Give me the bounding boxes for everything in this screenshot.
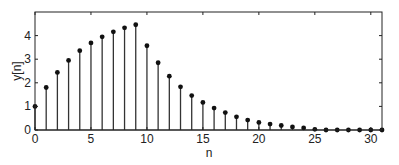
- x-tick-label: 0: [32, 132, 39, 146]
- stem-point: [145, 43, 150, 130]
- x-tick-label: 5: [88, 132, 95, 146]
- plot-canvas: 05101520253001234 n y[n]: [0, 0, 399, 165]
- stem-point: [156, 60, 161, 130]
- stem-point: [234, 114, 239, 130]
- stem-point: [178, 84, 183, 130]
- y-tick-label: 1: [24, 99, 31, 113]
- stem-plot: n y[n] 05101520253001234 n y[n]: [0, 0, 399, 165]
- stem-point: [279, 123, 284, 130]
- stem-point: [290, 125, 295, 130]
- y-tick-label: 0: [24, 123, 31, 137]
- x-tick-label: 15: [196, 132, 210, 146]
- stem-point: [245, 118, 250, 130]
- y-tick-label: 3: [24, 52, 31, 66]
- stem-point: [189, 93, 194, 130]
- stem-point: [122, 25, 127, 130]
- stem-point: [89, 41, 94, 130]
- x-axis-label: n: [206, 146, 213, 160]
- stem-series: [33, 22, 385, 132]
- stem-point: [212, 106, 217, 130]
- axes-box: [35, 12, 382, 130]
- y-tick-label: 2: [24, 76, 31, 90]
- stem-point: [44, 85, 49, 130]
- stem-point: [111, 29, 116, 130]
- y-tick-label: 4: [24, 29, 31, 43]
- x-tick-label: 30: [364, 132, 378, 146]
- stem-point: [223, 110, 228, 130]
- stem-point: [268, 122, 273, 130]
- stem-point: [66, 58, 71, 130]
- stem-point: [201, 100, 206, 130]
- x-tick-label: 10: [140, 132, 154, 146]
- x-tick-label: 20: [252, 132, 266, 146]
- stem-point: [133, 22, 138, 130]
- stem-point: [55, 70, 60, 130]
- x-tick-label: 25: [308, 132, 322, 146]
- stem-point: [77, 48, 82, 130]
- y-axis-label: y[n]: [10, 61, 24, 80]
- stem-point: [167, 74, 172, 130]
- stem-point: [100, 34, 105, 130]
